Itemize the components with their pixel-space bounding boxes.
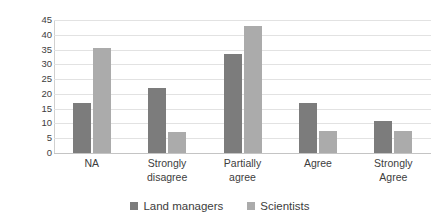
- plot-area: [54, 20, 431, 153]
- legend-swatch-icon: [247, 202, 255, 210]
- bar-group: [205, 20, 280, 153]
- bar-pair: [280, 20, 355, 153]
- bar: [244, 26, 262, 153]
- x-axis-tick-label: Strongly Agree: [356, 157, 431, 193]
- bar: [73, 103, 91, 153]
- bar-group: [356, 20, 431, 153]
- bar: [299, 103, 317, 153]
- chart-legend: Land managersScientists: [0, 197, 440, 215]
- y-axis-tick-labels: 454035302520151050: [30, 20, 52, 153]
- y-axis-tick-label: 35: [30, 44, 52, 56]
- y-axis-tick-label: 30: [30, 58, 52, 70]
- y-axis-tick-label: 10: [30, 117, 52, 129]
- bar: [168, 132, 186, 153]
- bar: [394, 131, 412, 153]
- legend-label: Land managers: [143, 199, 223, 213]
- bar-group: [54, 20, 129, 153]
- bar: [374, 121, 392, 154]
- x-axis-tick-label: Partially agree: [205, 157, 280, 193]
- bar: [93, 48, 111, 153]
- bar-pair: [356, 20, 431, 153]
- bar: [148, 88, 166, 153]
- bar: [319, 131, 337, 153]
- legend-swatch-icon: [130, 202, 138, 210]
- axis-baseline: [54, 153, 431, 154]
- y-axis-tick-label: 0: [30, 147, 52, 159]
- bar-pair: [205, 20, 280, 153]
- x-axis-tick-labels: NAStrongly disagreePartially agreeAgreeS…: [54, 157, 431, 193]
- bar-groups: [54, 20, 431, 153]
- bar-pair: [129, 20, 204, 153]
- legend-item[interactable]: Land managers: [130, 199, 223, 213]
- y-axis-tick-label: 5: [30, 132, 52, 144]
- y-axis-tick-label: 45: [30, 14, 52, 26]
- x-axis-tick-label: Agree: [280, 157, 355, 193]
- y-axis-tick-label: 20: [30, 88, 52, 100]
- legend-item[interactable]: Scientists: [247, 199, 309, 213]
- bar-group: [280, 20, 355, 153]
- y-axis-tick-label: 25: [30, 73, 52, 85]
- y-axis-tick-label: 15: [30, 103, 52, 115]
- bar: [224, 54, 242, 153]
- bar-pair: [54, 20, 129, 153]
- x-axis-tick-label: NA: [54, 157, 129, 193]
- y-axis-tick-label: 40: [30, 29, 52, 41]
- x-axis-tick-label: Strongly disagree: [129, 157, 204, 193]
- legend-label: Scientists: [260, 199, 309, 213]
- bar-group: [129, 20, 204, 153]
- bar-chart: Percentage of respondents 45403530252015…: [0, 0, 440, 220]
